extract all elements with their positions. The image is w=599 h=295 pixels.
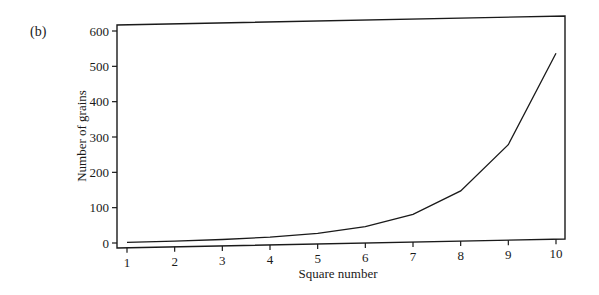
x-tick-label: 7 (410, 249, 417, 264)
y-axis-label: Number of grains (74, 90, 89, 182)
x-axis-label: Square number (298, 266, 378, 281)
x-tick-label: 10 (550, 246, 563, 261)
y-tick-label: 300 (90, 130, 110, 145)
y-tick-label: 100 (90, 200, 110, 215)
x-tick-label: 8 (457, 248, 464, 263)
x-tick-label: 9 (505, 247, 512, 262)
y-tick-label: 200 (90, 165, 110, 180)
panel-label: (b) (30, 24, 47, 40)
y-tick-label: 500 (90, 59, 110, 74)
line-chart: (b) 0100200300400500600 12345678910 Numb… (0, 0, 599, 295)
plot-frame (117, 16, 565, 248)
y-tick-label: 400 (90, 94, 110, 109)
series-line (127, 53, 556, 242)
y-axis: 0100200300400500600 (90, 24, 118, 251)
x-tick-label: 2 (171, 254, 178, 269)
x-tick-label: 5 (314, 251, 321, 266)
x-tick-label: 4 (267, 252, 274, 267)
y-tick-label: 600 (90, 24, 110, 39)
y-tick-label: 0 (103, 236, 110, 251)
x-tick-label: 1 (124, 255, 131, 270)
x-tick-label: 6 (362, 250, 369, 265)
x-tick-label: 3 (219, 253, 226, 268)
